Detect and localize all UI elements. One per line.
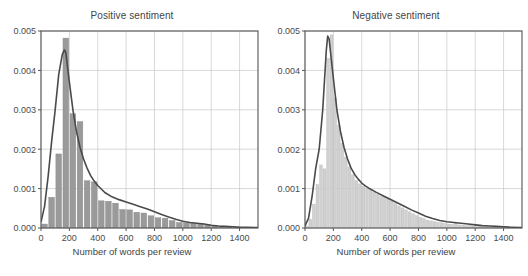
x-axis-tick-label: 600 <box>383 233 398 243</box>
histogram-bar <box>419 217 422 228</box>
histogram-bar <box>405 210 408 228</box>
histogram-bar <box>91 182 97 228</box>
histogram-bar <box>412 214 415 228</box>
histogram-bar <box>426 220 429 228</box>
chart-panel-negative: Negative sentiment 0.0000.0010.0020.0030… <box>264 0 528 276</box>
histogram-bar <box>141 213 147 228</box>
x-axis-tick-label: 1000 <box>437 233 457 243</box>
x-axis-tick-label: 400 <box>90 233 105 243</box>
histogram-bar <box>148 216 154 228</box>
histogram-bar <box>98 201 104 228</box>
figure-canvas: Positive sentiment 0.0000.0010.0020.0030… <box>0 0 528 276</box>
x-axis-label-negative: Number of words per review <box>264 246 528 257</box>
y-axis-tick-label: 0.000 <box>13 223 36 233</box>
histogram-bar <box>113 203 119 228</box>
histogram-bar <box>327 59 330 228</box>
histogram-bar <box>366 189 369 228</box>
histogram-bar <box>394 204 397 228</box>
x-axis-tick-label: 1200 <box>465 233 485 243</box>
histogram-bar <box>184 223 190 228</box>
y-axis-tick-label: 0.002 <box>277 145 300 155</box>
histogram-bar <box>120 209 126 228</box>
x-axis-tick-label: 0 <box>302 233 307 243</box>
histogram-bar <box>155 218 161 228</box>
y-axis-tick-label: 0.001 <box>13 184 36 194</box>
x-axis-tick-label: 1000 <box>173 233 193 243</box>
histogram-bar <box>316 185 319 228</box>
histogram-bar <box>320 165 323 228</box>
histogram-bar <box>56 154 62 228</box>
histogram-bar <box>337 126 340 228</box>
histogram-bar <box>84 181 90 228</box>
y-axis-tick-label: 0.004 <box>277 66 300 76</box>
histogram-bar <box>401 208 404 228</box>
histogram-bar <box>334 98 337 228</box>
histogram-bar <box>398 206 401 228</box>
histogram-bar <box>359 184 362 228</box>
x-axis-tick-label: 1400 <box>494 233 514 243</box>
histogram-bar <box>351 175 354 228</box>
x-axis-tick-label: 800 <box>147 233 162 243</box>
histogram-bar <box>127 210 133 228</box>
histogram-bar <box>376 195 379 228</box>
histogram-bar <box>369 191 372 228</box>
y-axis-tick-label: 0.002 <box>13 145 36 155</box>
histogram-bar <box>355 181 358 228</box>
histogram-bar <box>169 221 175 228</box>
histogram-bar <box>49 197 55 228</box>
y-axis-tick-label: 0.003 <box>277 105 300 115</box>
chart-panel-positive: Positive sentiment 0.0000.0010.0020.0030… <box>0 0 264 276</box>
histogram-bar <box>341 143 344 228</box>
histogram-bar <box>380 196 383 228</box>
histogram-bar <box>408 212 411 228</box>
x-axis-tick-label: 200 <box>62 233 77 243</box>
y-axis-tick-label: 0.005 <box>13 26 36 36</box>
histogram-bar <box>348 167 351 228</box>
histogram-bar <box>106 201 112 228</box>
x-axis-tick-label: 0 <box>38 233 43 243</box>
histogram-bar <box>134 212 140 228</box>
y-axis-tick-label: 0.005 <box>277 26 300 36</box>
x-axis-tick-label: 200 <box>326 233 341 243</box>
histogram-bar <box>444 224 447 228</box>
histogram-bar <box>362 187 365 228</box>
histogram-bar <box>323 169 326 228</box>
y-axis-tick-label: 0.003 <box>13 105 36 115</box>
histogram-bar <box>191 223 197 228</box>
histogram-bar <box>162 218 168 228</box>
y-axis-tick-label: 0.004 <box>13 66 36 76</box>
histogram-bar <box>430 221 433 228</box>
x-axis-tick-label: 800 <box>411 233 426 243</box>
histogram-bar <box>390 201 393 228</box>
plot-area-positive: 0.0000.0010.0020.0030.0040.0050200400600… <box>0 0 264 276</box>
histogram-bar <box>383 198 386 228</box>
plot-area-negative: 0.0000.0010.0020.0030.0040.0050200400600… <box>264 0 528 276</box>
histogram-bar <box>447 224 450 228</box>
histogram-bar <box>433 222 436 228</box>
x-axis-tick-label: 1200 <box>201 233 221 243</box>
histogram-bar <box>437 222 440 228</box>
y-axis-tick-label: 0.001 <box>277 184 300 194</box>
x-axis-tick-label: 400 <box>354 233 369 243</box>
y-axis-tick-label: 0.000 <box>277 223 300 233</box>
histogram-bar <box>415 216 418 228</box>
histogram-bar <box>387 199 390 228</box>
histogram-bar <box>70 114 76 228</box>
histogram-bar <box>176 222 182 228</box>
histogram-bar <box>373 193 376 228</box>
histogram-bar <box>344 157 347 228</box>
histogram-bar <box>440 223 443 228</box>
x-axis-tick-label: 600 <box>119 233 134 243</box>
histogram-bar <box>42 224 48 228</box>
histogram-bar <box>422 219 425 228</box>
x-axis-tick-label: 1400 <box>230 233 250 243</box>
histogram-bar <box>309 219 312 228</box>
histogram-bar <box>312 204 315 228</box>
histogram-bar <box>454 223 457 228</box>
x-axis-label-positive: Number of words per review <box>0 246 264 257</box>
